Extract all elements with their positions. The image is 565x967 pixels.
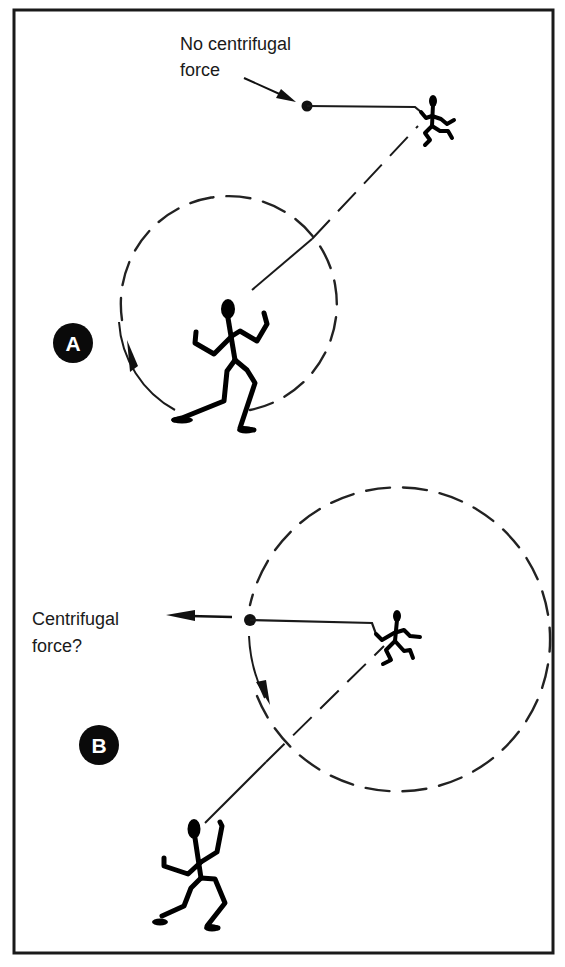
panel-a: No centrifugal force A bbox=[53, 34, 454, 434]
annotation-pointer-a bbox=[244, 78, 284, 96]
centrifugal-arrow-icon bbox=[166, 610, 195, 621]
sight-line-b bbox=[205, 762, 266, 823]
sight-line-b-dashed bbox=[266, 646, 384, 762]
badge-b: B bbox=[79, 725, 119, 765]
observer-figure-b bbox=[152, 819, 225, 932]
rope-a bbox=[307, 106, 421, 112]
badge-b-label: B bbox=[91, 734, 106, 757]
diagram-canvas: No centrifugal force A bbox=[0, 0, 565, 967]
label-no-centrifugal-line1: No centrifugal bbox=[180, 34, 291, 54]
badge-a-label: A bbox=[65, 332, 80, 355]
small-figure-b bbox=[376, 610, 420, 664]
label-centrifugal-line1: Centrifugal bbox=[32, 609, 119, 629]
panel-b: Centrifugal force? B bbox=[32, 487, 550, 931]
rotation-path-a-solid bbox=[119, 322, 175, 410]
thrower-figure-a bbox=[171, 299, 267, 434]
release-line-a bbox=[252, 239, 312, 290]
diagram-svg: No centrifugal force A bbox=[0, 0, 565, 967]
rope-b bbox=[250, 620, 376, 634]
direction-arrow-a-icon bbox=[127, 340, 138, 372]
release-line-a-dashed bbox=[312, 126, 418, 239]
small-figure-a bbox=[421, 95, 454, 145]
badge-a: A bbox=[53, 323, 93, 363]
label-centrifugal-line2: force? bbox=[32, 636, 82, 656]
pointer-arrow-a-icon bbox=[276, 89, 296, 102]
figure-frame bbox=[14, 10, 553, 953]
centrifugal-arrow-shaft bbox=[190, 616, 232, 617]
label-no-centrifugal-line2: force bbox=[180, 60, 220, 80]
rotation-path-b bbox=[250, 487, 550, 791]
